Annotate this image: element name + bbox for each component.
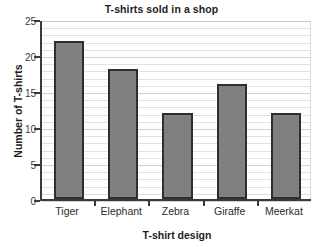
gridline-major: [42, 21, 311, 22]
chart-title: T-shirts sold in a shop: [0, 3, 323, 15]
bar-chart: T-shirts sold in a shop Number of T-shir…: [0, 0, 323, 247]
bar: [54, 41, 84, 199]
y-axis-tick-label: 0: [14, 196, 36, 207]
x-axis-category-label: Elephant: [101, 205, 142, 217]
y-axis-tick-label: 20: [14, 52, 36, 63]
x-axis-tick-mark: [203, 201, 205, 206]
x-axis-tick-mark: [257, 201, 259, 206]
y-axis-tick-label: 25: [14, 16, 36, 27]
gridline-major: [42, 201, 311, 202]
bar: [217, 84, 247, 199]
x-axis-tick-mark: [148, 201, 150, 206]
x-axis-category-label: Giraffe: [214, 205, 245, 217]
y-axis-tick-label: 10: [14, 124, 36, 135]
gridline-minor: [42, 28, 311, 29]
x-axis-title: T-shirt design: [38, 229, 316, 241]
x-axis-category-label: Tiger: [55, 205, 79, 217]
x-axis-category-label: Meerkat: [265, 205, 303, 217]
y-axis-tick-label: 15: [14, 88, 36, 99]
bar: [108, 69, 138, 199]
bar: [162, 113, 192, 199]
plot-area: [40, 21, 311, 201]
x-axis-tick-mark: [94, 201, 96, 206]
x-axis-category-label: Zebra: [162, 205, 189, 217]
gridline-minor: [42, 35, 311, 36]
plot-right-edge: [310, 21, 311, 199]
bar: [271, 113, 301, 199]
y-axis-tick-label: 5: [14, 160, 36, 171]
